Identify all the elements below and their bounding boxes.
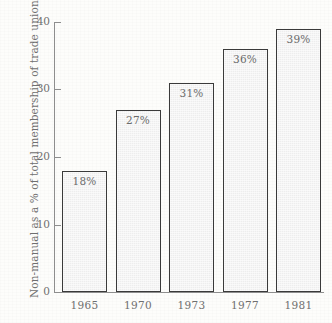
x-axis-label-1973: 1973 [161, 299, 222, 311]
bar-value-label-1977: 36% [224, 53, 267, 65]
x-axis-label-1977: 1977 [215, 299, 276, 311]
bar-1965[interactable]: 18% [62, 171, 107, 293]
y-tick-label-10: 10 [26, 218, 50, 230]
y-tick-mark-0 [54, 292, 61, 293]
bar-chart-figure: Non-manual as a % of total membership of… [0, 0, 332, 323]
y-tick-label-0: 0 [26, 285, 50, 297]
bar-1981[interactable]: 39% [276, 29, 321, 292]
bar-1977[interactable]: 36% [223, 49, 268, 292]
bar-value-label-1970: 27% [117, 114, 160, 126]
y-tick-label-40: 40 [26, 15, 50, 27]
y-tick-label-30: 30 [26, 82, 50, 94]
x-axis-label-1970: 1970 [108, 299, 169, 311]
x-axis-label-1965: 1965 [54, 299, 115, 311]
y-tick-mark-20 [54, 157, 61, 158]
bar-1970[interactable]: 27% [116, 110, 161, 292]
y-tick-mark-30 [54, 89, 61, 90]
x-axis-line [54, 292, 324, 293]
x-axis-label-1981: 1981 [268, 299, 329, 311]
y-tick-label-20: 20 [26, 150, 50, 162]
bar-value-label-1965: 18% [63, 175, 106, 187]
y-tick-mark-10 [54, 225, 61, 226]
bar-value-label-1973: 31% [170, 87, 213, 99]
bar-value-label-1981: 39% [277, 33, 320, 45]
y-tick-mark-40 [54, 22, 61, 23]
bar-1973[interactable]: 31% [169, 83, 214, 292]
